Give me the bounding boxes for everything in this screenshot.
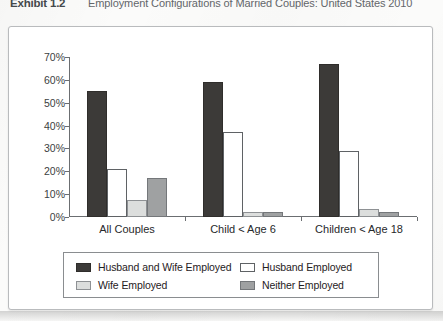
bar (379, 212, 399, 217)
bar (223, 132, 243, 217)
x-axis-category-label: Children < Age 18 (315, 223, 403, 235)
chart-axes (69, 57, 417, 217)
y-axis-line (69, 57, 70, 217)
y-axis-tick-mark (65, 103, 69, 104)
bar (263, 212, 283, 217)
y-axis-tick-label: 70% (31, 51, 65, 63)
x-axis-category-label: All Couples (99, 223, 155, 235)
bar (203, 82, 223, 217)
y-axis-tick-mark (65, 194, 69, 195)
y-axis-tick-mark (65, 217, 69, 218)
y-axis-tick-label: 10% (31, 188, 65, 200)
y-axis-tick-label: 0% (31, 211, 65, 223)
y-axis-tick-label: 20% (31, 165, 65, 177)
exhibit-title: Employment Configurations of Married Cou… (88, 0, 434, 11)
y-axis-tick-label: 50% (31, 97, 65, 109)
y-axis-tick-label: 40% (31, 120, 65, 132)
x-axis-tick-mark (301, 217, 302, 221)
legend-entry: Husband and Wife Employed (76, 261, 232, 273)
legend-entry: Wife Employed (76, 279, 167, 291)
legend-label: Wife Employed (98, 279, 167, 291)
legend-label: Husband Employed (262, 261, 352, 273)
bar (243, 212, 263, 217)
y-axis-tick-labels: 0%10%20%30%40%50%60%70% (27, 27, 65, 311)
scan-edge-shadow (0, 311, 443, 321)
legend-swatch (76, 263, 91, 272)
y-axis-tick-label: 60% (31, 74, 65, 86)
bar (359, 209, 379, 217)
y-axis-tick-mark (65, 148, 69, 149)
x-axis-tick-mark (417, 217, 418, 221)
bar (127, 200, 147, 217)
bar (107, 169, 127, 217)
y-axis-tick-mark (65, 80, 69, 81)
bar (319, 64, 339, 217)
legend-swatch (240, 263, 255, 272)
x-axis-tick-mark (185, 217, 186, 221)
y-axis-tick-label: 30% (31, 142, 65, 154)
bar (87, 91, 107, 217)
legend-swatch (76, 281, 91, 290)
legend-label: Husband and Wife Employed (98, 261, 232, 273)
legend-entry: Husband Employed (240, 261, 352, 273)
y-axis-tick-mark (65, 57, 69, 58)
legend-label: Neither Employed (262, 279, 344, 291)
bar (147, 178, 167, 217)
legend-entry: Neither Employed (240, 279, 344, 291)
legend-swatch (240, 281, 255, 290)
y-axis-tick-mark (65, 171, 69, 172)
exhibit-number-label: Exhibit 1.2 (10, 0, 65, 9)
x-axis-category-label: Child < Age 6 (210, 223, 276, 235)
y-axis-tick-mark (65, 126, 69, 127)
chart-legend: Husband and Wife EmployedHusband Employe… (63, 252, 379, 298)
chart-panel: 0%10%20%30%40%50%60%70% All CouplesChild… (8, 26, 433, 310)
bar (339, 151, 359, 217)
